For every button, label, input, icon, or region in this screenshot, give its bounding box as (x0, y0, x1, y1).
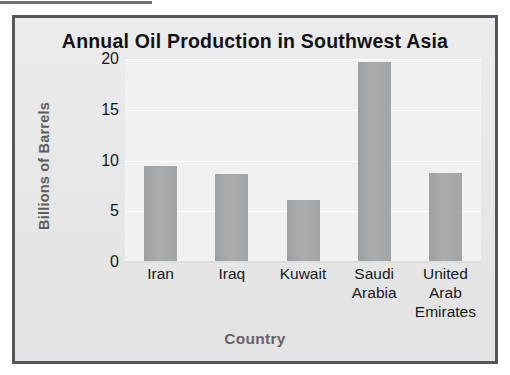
x-axis-tick-label-line: United (410, 264, 481, 283)
chart-figure-frame: Annual Oil Production in Southwest Asia … (12, 15, 498, 364)
x-axis-baseline (125, 261, 481, 263)
y-axis-tick-label: 10 (71, 153, 119, 169)
plot-area (125, 59, 481, 262)
x-axis-tick-label-line: Iran (125, 264, 196, 283)
x-axis-tick-label: Kuwait (267, 264, 338, 283)
scan-artifact-strip (0, 1, 152, 4)
y-axis-tick-label: 5 (71, 203, 119, 219)
bar (287, 200, 320, 262)
bar (144, 166, 177, 262)
x-axis-tick-label-line: Arabia (339, 283, 410, 302)
gridline (125, 161, 481, 162)
x-axis-tick-label-line: Emirates (410, 302, 481, 321)
x-axis-tick-label-line: Iraq (196, 264, 267, 283)
gridline (125, 59, 481, 60)
bar (358, 62, 391, 262)
bar (429, 173, 462, 262)
bar (215, 174, 248, 262)
x-axis-tick-label: SaudiArabia (339, 264, 410, 302)
x-axis-title: Country (125, 330, 385, 348)
y-axis-tick-label: 15 (71, 102, 119, 118)
chart-figure-body: Annual Oil Production in Southwest Asia … (15, 18, 495, 361)
gridline (125, 110, 481, 111)
x-axis-tick-label-line: Arab (410, 283, 481, 302)
y-axis-tick-label: 0 (71, 254, 119, 270)
x-axis-tick-label: Iran (125, 264, 196, 283)
y-axis-tick-label: 20 (71, 51, 119, 67)
x-axis-tick-label-line: Kuwait (267, 264, 338, 283)
chart-title: Annual Oil Production in Southwest Asia (15, 30, 495, 53)
y-axis-title: Billions of Barrels (36, 91, 52, 241)
x-axis-tick-label: Iraq (196, 264, 267, 283)
x-axis-tick-label: UnitedArabEmirates (410, 264, 481, 322)
x-axis-tick-label-line: Saudi (339, 264, 410, 283)
y-axis-tick-labels: 05101520 (59, 59, 119, 262)
